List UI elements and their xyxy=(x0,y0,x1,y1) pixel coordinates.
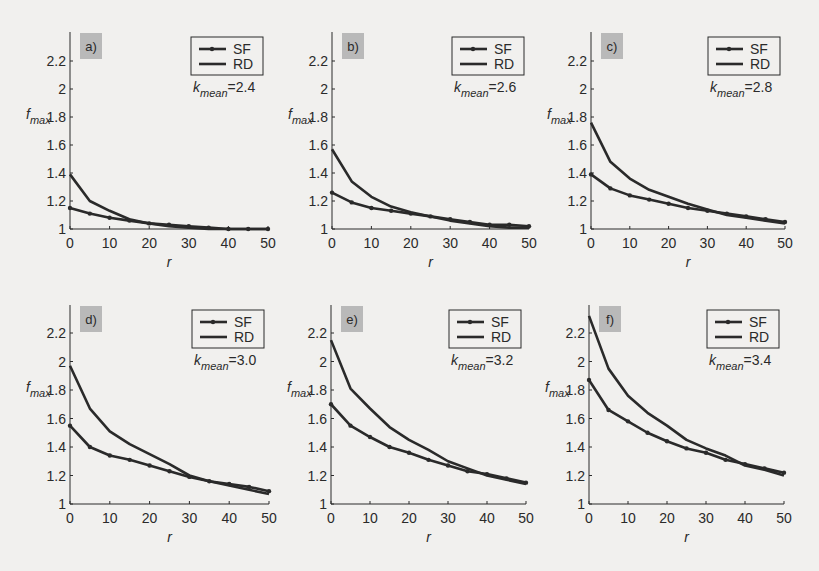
legend: SFRD xyxy=(191,37,263,75)
series-line-sf xyxy=(591,174,785,222)
legend-marker xyxy=(726,320,730,324)
figure-grid: 11.21.41.61.822.201020304050rfmaxa)SFRDk… xyxy=(0,0,819,571)
legend-label-sf: SF xyxy=(491,314,509,330)
y-tick-label: 2 xyxy=(579,81,587,97)
k-mean-annotation: kmean=3.4 xyxy=(709,352,771,372)
x-axis-label: r xyxy=(426,529,432,545)
series-line-rd xyxy=(70,174,268,229)
series-line-sf xyxy=(331,404,526,482)
y-tick-label: 2.2 xyxy=(309,53,329,69)
legend-label-rd: RD xyxy=(233,56,253,72)
legend: SFRD xyxy=(452,37,524,75)
legend-label-sf: SF xyxy=(749,314,767,330)
panel-tag-label: b) xyxy=(347,39,359,54)
y-tick-label: 1.6 xyxy=(568,137,588,153)
data-point-marker xyxy=(665,439,669,443)
y-tick-label: 1.2 xyxy=(309,193,329,209)
y-tick-label: 1.2 xyxy=(47,468,67,484)
x-tick-label: 30 xyxy=(181,235,197,251)
y-tick-label: 1.4 xyxy=(568,165,588,181)
legend-marker xyxy=(211,320,215,324)
legend-label-rd: RD xyxy=(491,329,511,345)
y-tick-label: 1.4 xyxy=(47,439,67,455)
x-tick-label: 30 xyxy=(700,235,716,251)
legend-label-rd: RD xyxy=(749,329,769,345)
chart-panel-f: 11.21.41.61.822.201020304050rfmaxf)SFRDk… xyxy=(545,305,792,545)
data-point-marker xyxy=(330,190,334,194)
legend: SFRD xyxy=(192,310,264,348)
data-point-marker xyxy=(88,211,92,215)
y-tick-label: 1 xyxy=(319,496,327,512)
data-point-marker xyxy=(389,209,393,213)
series-line-sf xyxy=(70,426,269,492)
legend-label-sf: SF xyxy=(750,41,768,57)
x-tick-label: 50 xyxy=(776,510,792,526)
x-tick-label: 40 xyxy=(221,510,237,526)
x-tick-label: 0 xyxy=(585,510,593,526)
y-tick-label: 1 xyxy=(58,496,66,512)
data-point-marker xyxy=(426,458,430,462)
x-tick-label: 10 xyxy=(102,235,118,251)
y-tick-label: 1.4 xyxy=(566,439,586,455)
data-point-marker xyxy=(626,419,630,423)
x-axis-label: r xyxy=(167,529,173,545)
x-tick-label: 50 xyxy=(261,510,277,526)
panel-tag-label: a) xyxy=(85,39,97,54)
data-point-marker xyxy=(167,469,171,473)
chart-panel-e: 11.21.41.61.822.201020304050rfmaxe)SFRDk… xyxy=(287,305,534,545)
x-tick-label: 20 xyxy=(401,510,417,526)
data-point-marker xyxy=(606,408,610,412)
x-tick-label: 10 xyxy=(364,235,380,251)
x-tick-label: 0 xyxy=(66,235,74,251)
y-tick-label: 1.6 xyxy=(47,411,67,427)
legend-marker xyxy=(471,47,475,51)
x-tick-label: 50 xyxy=(777,235,793,251)
series-line-rd xyxy=(332,149,529,227)
legend-label-sf: SF xyxy=(494,41,512,57)
legend-label-rd: RD xyxy=(234,329,254,345)
data-point-marker xyxy=(348,423,352,427)
x-tick-label: 50 xyxy=(518,510,534,526)
data-point-marker xyxy=(666,202,670,206)
x-tick-label: 10 xyxy=(362,510,378,526)
y-tick-label: 1 xyxy=(577,496,585,512)
k-mean-annotation: kmean=2.4 xyxy=(193,79,255,99)
x-tick-label: 30 xyxy=(442,235,458,251)
data-point-marker xyxy=(407,451,411,455)
data-point-marker xyxy=(88,445,92,449)
y-tick-label: 2 xyxy=(320,81,328,97)
data-point-marker xyxy=(68,206,72,210)
legend: SFRD xyxy=(708,37,780,75)
legend-label-rd: RD xyxy=(750,56,770,72)
data-point-marker xyxy=(647,197,651,201)
k-mean-annotation: kmean=3.2 xyxy=(451,352,513,372)
y-tick-label: 1.2 xyxy=(47,193,67,209)
x-tick-label: 10 xyxy=(102,510,118,526)
chart-panel-b: 11.21.41.61.822.201020304050rfmaxb)SFRDk… xyxy=(288,32,537,270)
x-tick-label: 20 xyxy=(141,235,157,251)
x-tick-label: 10 xyxy=(620,510,636,526)
y-tick-label: 2.2 xyxy=(566,325,586,341)
data-point-marker xyxy=(107,216,111,220)
chart-panel-c: 11.21.41.61.822.201020304050rfmaxc)SFRDk… xyxy=(547,32,793,270)
x-tick-label: 50 xyxy=(521,235,537,251)
panel-tag-label: e) xyxy=(346,312,358,327)
y-tick-label: 2 xyxy=(58,354,66,370)
legend-marker xyxy=(727,47,731,51)
x-axis-label: r xyxy=(684,529,690,545)
x-tick-label: 40 xyxy=(737,510,753,526)
y-tick-label: 1 xyxy=(579,221,587,237)
y-tick-label: 1.2 xyxy=(566,468,586,484)
series-line-sf xyxy=(589,380,784,473)
x-tick-label: 0 xyxy=(328,235,336,251)
y-tick-label: 1 xyxy=(320,221,328,237)
k-mean-annotation: kmean=2.8 xyxy=(710,79,772,99)
data-point-marker xyxy=(329,402,333,406)
x-axis-label: r xyxy=(167,254,173,270)
x-tick-label: 20 xyxy=(659,510,675,526)
chart-panel-a: 11.21.41.61.822.201020304050rfmaxa)SFRDk… xyxy=(26,32,276,270)
y-tick-label: 1.2 xyxy=(308,468,328,484)
data-point-marker xyxy=(128,458,132,462)
y-tick-label: 1 xyxy=(58,221,66,237)
x-tick-label: 30 xyxy=(440,510,456,526)
